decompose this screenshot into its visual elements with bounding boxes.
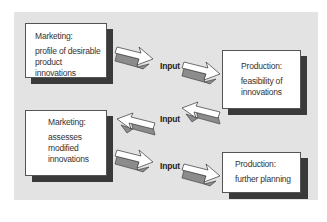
box-body: feasibility of innovations — [231, 76, 292, 98]
input-label: Input — [160, 161, 180, 171]
arrow-right-icon — [115, 148, 155, 174]
box-title: Marketing: — [35, 31, 106, 42]
arrow-right-icon — [115, 45, 155, 71]
box-body: profile of desirable product innovations — [35, 46, 103, 79]
arrow-left-icon — [180, 102, 220, 128]
box-title: Production: — [231, 61, 292, 72]
box-title: Production: — [235, 159, 300, 170]
marketing-profile-box: Marketing: profile of desirable product … — [25, 23, 107, 78]
box-title: Marketing: — [48, 117, 106, 128]
box-body: further planning — [235, 174, 300, 185]
production-planning-box: Production: further planning — [222, 152, 301, 193]
input-label: Input — [160, 114, 180, 124]
arrow-right-icon — [182, 60, 222, 86]
input-label: Input — [160, 61, 180, 71]
box-body: assesses modified innovations — [48, 132, 100, 165]
arrow-left-icon — [115, 113, 155, 139]
arrow-right-icon — [182, 162, 222, 188]
marketing-assesses-box: Marketing: assesses modified innovations — [25, 110, 107, 176]
production-feasibility-box: Production: feasibility of innovations — [222, 50, 301, 109]
